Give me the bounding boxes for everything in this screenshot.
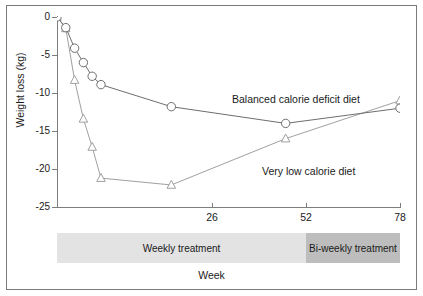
vlcd-data-point — [396, 96, 400, 104]
balanced-data-point — [97, 80, 105, 88]
y-tick-label: -20 — [20, 164, 50, 174]
x-tick-label: 26 — [206, 211, 218, 223]
x-tick-label: 52 — [300, 211, 312, 223]
series-label-very-low-calorie-diet: Very low calorie diet — [262, 165, 355, 177]
vlcd-data-point — [88, 142, 96, 150]
balanced-line — [57, 17, 400, 123]
x-tick-mark — [400, 203, 401, 208]
treatment-band-biweekly-label: Bi-weekly treatment — [309, 243, 397, 254]
y-tick-label: 0 — [20, 12, 50, 22]
balanced-data-point — [281, 119, 289, 127]
balanced-data-point — [88, 72, 96, 80]
vlcd-data-point — [79, 114, 87, 122]
vlcd-data-point — [97, 174, 105, 182]
balanced-marker-group — [57, 17, 400, 128]
series-balanced-calorie-deficit-diet — [57, 17, 400, 128]
y-tick-label: -10 — [20, 88, 50, 98]
x-tick-label: 78 — [394, 211, 406, 223]
balanced-data-point — [396, 104, 400, 112]
y-tick-label: -15 — [20, 126, 50, 136]
vlcd-data-point — [70, 75, 78, 83]
x-axis-label: Week — [0, 269, 423, 281]
balanced-data-point — [62, 23, 70, 31]
y-tick-label-group: 0 -5 -10 -15 -20 -25 — [14, 0, 50, 296]
x-axis-line — [57, 207, 401, 208]
balanced-data-point — [70, 44, 78, 52]
treatment-band-weekly: Weekly treatment — [57, 233, 306, 263]
balanced-data-point — [167, 102, 175, 110]
balanced-data-point — [79, 58, 87, 66]
treatment-band-weekly-label: Weekly treatment — [143, 243, 221, 254]
y-tick-label: -25 — [20, 202, 50, 212]
figure-container: Weight loss (kg) 0 -5 -10 -15 -20 -25 26… — [0, 0, 423, 296]
series-label-balanced-calorie-deficit-diet: Balanced calorie deficit diet — [232, 93, 360, 105]
y-tick-label: -5 — [20, 50, 50, 60]
treatment-band-biweekly: Bi-weekly treatment — [306, 233, 400, 263]
plot-area — [57, 17, 400, 207]
